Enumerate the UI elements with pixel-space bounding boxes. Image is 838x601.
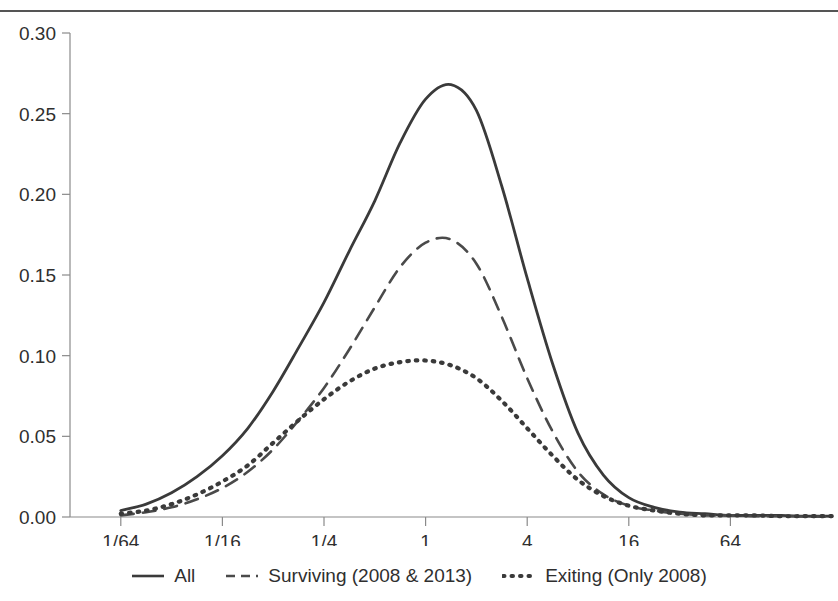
x-tick-label: 16 (618, 531, 639, 546)
legend-item[interactable]: Surviving (2008 & 2013) (225, 565, 472, 587)
legend-label: Surviving (2008 & 2013) (268, 565, 472, 587)
x-tick-label: 64 (720, 531, 742, 546)
x-tick-label: 1/64 (102, 531, 139, 546)
y-tick-label: 0.30 (19, 23, 56, 44)
y-tick-label: 0.10 (19, 346, 56, 367)
series-line (121, 238, 832, 517)
y-tick-label: 0.05 (19, 426, 56, 447)
y-axis: 0.000.050.100.150.200.250.30 (19, 23, 70, 528)
legend-line-swatch-solid (131, 569, 165, 583)
legend-line-swatch-dashed (225, 569, 259, 583)
figure-container: 0.000.050.100.150.200.250.30 1/641/161/4… (0, 0, 838, 601)
legend-line-swatch-dotted (502, 569, 536, 583)
series-layer (121, 84, 832, 516)
x-tick-label: 4 (522, 531, 533, 546)
y-tick-label: 0.00 (19, 507, 56, 528)
density-line-chart: 0.000.050.100.150.200.250.30 1/641/161/4… (0, 16, 838, 546)
top-divider-rule (0, 10, 838, 12)
y-tick-label: 0.25 (19, 104, 56, 125)
x-axis: 1/641/161/4141664 (70, 517, 832, 546)
chart-legend: AllSurviving (2008 & 2013)Exiting (Only … (0, 556, 838, 596)
plot-area: 0.000.050.100.150.200.250.30 1/641/161/4… (0, 16, 838, 546)
legend-label: Exiting (Only 2008) (545, 565, 707, 587)
x-tick-label: 1 (420, 531, 431, 546)
x-tick-label: 1/16 (204, 531, 241, 546)
legend-item[interactable]: All (131, 565, 195, 587)
series-line (121, 84, 832, 516)
y-tick-label: 0.15 (19, 265, 56, 286)
series-line (121, 360, 832, 516)
legend-label: All (174, 565, 195, 587)
legend-item[interactable]: Exiting (Only 2008) (502, 565, 707, 587)
y-tick-label: 0.20 (19, 184, 56, 205)
x-tick-label: 1/4 (311, 531, 338, 546)
